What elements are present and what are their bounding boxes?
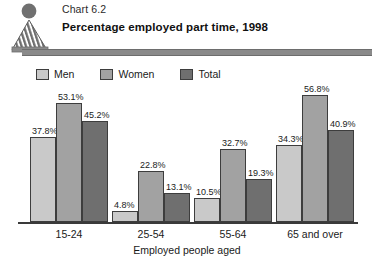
bar-women-55-64: 32.7%: [220, 149, 246, 222]
bar-men-25-54: 4.8%: [112, 211, 138, 222]
bar-groups-container: 37.8%53.1%45.2%4.8%22.8%13.1%10.5%32.7%1…: [22, 92, 352, 222]
bar-value-label: 37.8%: [32, 126, 58, 136]
bar-value-label: 56.8%: [304, 84, 330, 94]
legend-item-total: Total: [180, 69, 220, 80]
legend-swatch-men: [36, 69, 49, 80]
bar-slot: 56.8%: [302, 92, 328, 222]
legend-label-total: Total: [198, 69, 220, 80]
bar-slot: 4.8%: [112, 92, 138, 222]
x-axis-category-label: 65 and over: [256, 228, 374, 240]
bar-slot: 53.1%: [56, 92, 82, 222]
bar-women-65-and-over: 56.8%: [302, 95, 328, 222]
bar-slot: 22.8%: [138, 92, 164, 222]
bar-women-15-24: 53.1%: [56, 103, 82, 222]
legend-swatch-total: [180, 69, 193, 80]
bar-total-65-and-over: 40.9%: [328, 130, 354, 222]
bar-value-label: 19.3%: [248, 168, 274, 178]
bar-slot: 13.1%: [164, 92, 190, 222]
header-divider: [22, 49, 372, 56]
chart-header: Chart 6.2 Percentage employed part time,…: [0, 0, 374, 58]
x-axis-title: Employed people aged: [0, 244, 374, 256]
bar-value-label: 45.2%: [84, 110, 110, 120]
legend-item-women: Women: [100, 69, 154, 80]
bar-total-25-54: 13.1%: [164, 193, 190, 222]
bar-group: 10.5%32.7%19.3%: [194, 92, 272, 222]
bar-slot: 32.7%: [220, 92, 246, 222]
bar-group: 34.3%56.8%40.9%: [276, 92, 354, 222]
bar-group: 4.8%22.8%13.1%: [112, 92, 190, 222]
chart-title: Percentage employed part time, 1998: [62, 21, 268, 33]
bar-value-label: 22.8%: [140, 160, 166, 170]
bar-women-25-54: 22.8%: [138, 171, 164, 222]
chart-number-label: Chart 6.2: [62, 3, 106, 15]
legend-swatch-women: [100, 69, 113, 80]
bar-men-65-and-over: 34.3%: [276, 145, 302, 222]
legend-item-men: Men: [36, 69, 74, 80]
bar-value-label: 10.5%: [196, 187, 222, 197]
bar-slot: 40.9%: [328, 92, 354, 222]
bar-total-55-64: 19.3%: [246, 179, 272, 222]
bar-value-label: 53.1%: [58, 92, 84, 102]
bar-slot: 19.3%: [246, 92, 272, 222]
bar-slot: 10.5%: [194, 92, 220, 222]
bar-slot: 45.2%: [82, 92, 108, 222]
bar-men-15-24: 37.8%: [30, 137, 56, 222]
x-axis-baseline: [18, 222, 358, 224]
bar-men-55-64: 10.5%: [194, 198, 220, 222]
statistics-person-logo-icon: [6, 2, 58, 54]
bar-value-label: 13.1%: [166, 182, 192, 192]
bar-slot: 34.3%: [276, 92, 302, 222]
bar-total-15-24: 45.2%: [82, 121, 108, 222]
bar-value-label: 34.3%: [278, 134, 304, 144]
chart-plot: 37.8%53.1%45.2%4.8%22.8%13.1%10.5%32.7%1…: [0, 92, 374, 267]
bar-value-label: 40.9%: [330, 119, 356, 129]
bar-value-label: 4.8%: [114, 200, 135, 210]
bar-slot: 37.8%: [30, 92, 56, 222]
bar-group: 37.8%53.1%45.2%: [30, 92, 108, 222]
bar-value-label: 32.7%: [222, 138, 248, 148]
chart-legend: Men Women Total: [36, 66, 221, 82]
legend-label-men: Men: [54, 69, 74, 80]
legend-label-women: Women: [118, 69, 154, 80]
